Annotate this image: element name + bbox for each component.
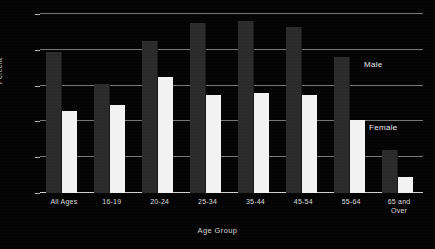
y-tick-mark [35, 193, 40, 194]
bar-male [382, 150, 398, 193]
series-label-female: Female [369, 123, 397, 132]
x-tick-label: 55-64 [327, 198, 375, 207]
bar-male [238, 21, 254, 193]
bar-male [142, 41, 158, 193]
x-tick-label: 16-19 [88, 198, 136, 207]
bar-group [238, 14, 269, 193]
x-tick-label: 45-54 [279, 198, 327, 207]
bar-male [190, 23, 206, 193]
x-tick-label: All Ages [40, 198, 88, 207]
bar-group [46, 14, 77, 193]
series-label-male: Male [364, 60, 383, 69]
y-tick-mark [35, 121, 40, 122]
plot-area [40, 14, 423, 193]
bar-group [334, 14, 365, 193]
bar-female [254, 93, 269, 193]
y-tick-mark [35, 86, 40, 87]
bar-group [190, 14, 221, 193]
bar-female [158, 77, 173, 193]
bar-chart: Percent 020406080100 All Ages16-1920-242… [0, 0, 435, 249]
bar-group [286, 14, 317, 193]
y-tick-mark [35, 157, 40, 158]
x-tick-label: 25-34 [184, 198, 232, 207]
bar-female [350, 120, 365, 193]
x-tick-label: 65 and Over [375, 198, 423, 215]
bar-female [206, 95, 221, 193]
bar-female [110, 105, 125, 193]
bar-group [94, 14, 125, 193]
bar-group [142, 14, 173, 193]
bar-male [46, 52, 62, 193]
bar-male [334, 57, 350, 193]
bar-female [62, 111, 77, 193]
bar-female [398, 177, 413, 193]
y-axis-title: Percent [0, 58, 3, 84]
bar-male [94, 84, 110, 193]
y-tick-mark [35, 50, 40, 51]
x-axis-title: Age Group [0, 226, 435, 235]
y-tick-mark [35, 14, 40, 15]
bar-female [302, 95, 317, 193]
bar-group [382, 14, 413, 193]
bar-male [286, 27, 302, 193]
x-tick-label: 20-24 [136, 198, 184, 207]
x-tick-label: 35-44 [232, 198, 280, 207]
